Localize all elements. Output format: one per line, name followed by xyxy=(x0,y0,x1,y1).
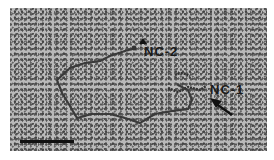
micrograph-image: NC-2 NC-1 xyxy=(10,8,267,151)
nc1-arrow-icon xyxy=(210,98,232,115)
scale-bar xyxy=(20,140,74,143)
nc1-label: NC-1 xyxy=(210,83,244,96)
dna-loop-strand xyxy=(10,8,267,151)
nc2-label: NC-2 xyxy=(144,45,178,58)
